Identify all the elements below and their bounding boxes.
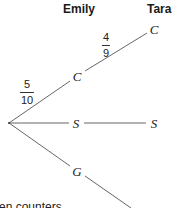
column-header-tara: Tara <box>147 3 171 15</box>
fraction-bar <box>102 45 110 46</box>
caption-text: en counters <box>0 201 62 208</box>
node-emily-s: S <box>72 117 81 130</box>
root-node-dot <box>8 122 10 124</box>
probability-root-to-c: 5 10 <box>20 79 34 106</box>
probability-c-to-c: 4 9 <box>102 32 110 59</box>
fraction-bar <box>20 92 34 93</box>
fraction-numerator: 5 <box>20 79 34 90</box>
branch-root-to-emily-g <box>9 123 70 166</box>
node-tara-c: C <box>149 23 160 36</box>
fraction-denominator: 10 <box>20 95 34 106</box>
branch-root-to-emily-c <box>9 81 70 123</box>
node-tara-s: S <box>150 117 159 130</box>
node-emily-c: C <box>72 70 83 83</box>
tree-diagram: Emily Tara 4 9 5 10 C S G C S en counter… <box>0 0 172 208</box>
fraction-numerator: 4 <box>102 32 110 43</box>
branch-emily-g-onward <box>85 176 131 208</box>
column-header-emily: Emily <box>63 3 95 15</box>
branch-emily-c-to-tara-c <box>85 33 147 71</box>
node-emily-g: G <box>71 165 82 178</box>
fraction-denominator: 9 <box>102 48 110 59</box>
